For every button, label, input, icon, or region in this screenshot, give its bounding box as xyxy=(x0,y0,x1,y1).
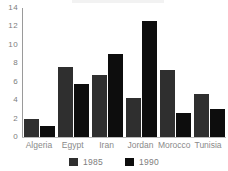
bar-tunisia-1985 xyxy=(194,94,209,137)
x-tick-label-jordan: Jordan xyxy=(124,139,158,151)
legend-item-1990: 1990 xyxy=(125,158,159,167)
bar-group xyxy=(194,8,225,137)
legend-label: 1990 xyxy=(139,158,159,167)
chart-legend: 19851990 xyxy=(0,155,228,169)
y-tick-label: 2 xyxy=(0,115,18,123)
legend-label: 1985 xyxy=(83,158,103,167)
x-tick-label-egypt: Egypt xyxy=(56,139,90,151)
bar-jordan-1990 xyxy=(142,21,157,137)
y-tick-label: 6 xyxy=(0,78,18,86)
bar-group xyxy=(24,8,55,137)
bar-morocco-1990 xyxy=(176,113,191,137)
x-axis-line xyxy=(22,137,226,138)
x-tick-label-iran: Iran xyxy=(90,139,124,151)
x-tick-label-tunisia: Tunisia xyxy=(191,139,225,151)
x-tick-label-morocco: Morocco xyxy=(157,139,191,151)
bar-group xyxy=(160,8,191,137)
bar-chart: 02468101214 AlgeriaEgyptIranJordanMorocc… xyxy=(0,0,228,171)
y-tick-label: 10 xyxy=(0,41,18,49)
y-tick-label: 14 xyxy=(0,4,18,12)
bar-egypt-1985 xyxy=(58,67,73,137)
bar-jordan-1985 xyxy=(126,98,141,137)
bar-algeria-1990 xyxy=(40,126,55,137)
bar-iran-1990 xyxy=(108,54,123,137)
y-tick-label: 12 xyxy=(0,22,18,30)
cropped-title-artifact xyxy=(72,0,164,3)
bar-tunisia-1990 xyxy=(210,109,225,137)
y-tick-label: 0 xyxy=(0,133,18,141)
x-axis-category-labels: AlgeriaEgyptIranJordanMoroccoTunisia xyxy=(22,139,226,153)
bar-morocco-1985 xyxy=(160,70,175,137)
bar-group xyxy=(92,8,123,137)
y-tick-label: 4 xyxy=(0,96,18,104)
bar-egypt-1990 xyxy=(74,84,89,137)
bar-group xyxy=(58,8,89,137)
y-tick-label: 8 xyxy=(0,59,18,67)
legend-swatch-icon xyxy=(69,158,78,166)
x-tick-label-algeria: Algeria xyxy=(22,139,56,151)
bar-iran-1985 xyxy=(92,75,107,137)
bar-algeria-1985 xyxy=(24,119,39,137)
plot-area xyxy=(23,8,226,137)
bar-group xyxy=(126,8,157,137)
legend-item-1985: 1985 xyxy=(69,158,103,167)
legend-swatch-icon xyxy=(125,158,134,166)
